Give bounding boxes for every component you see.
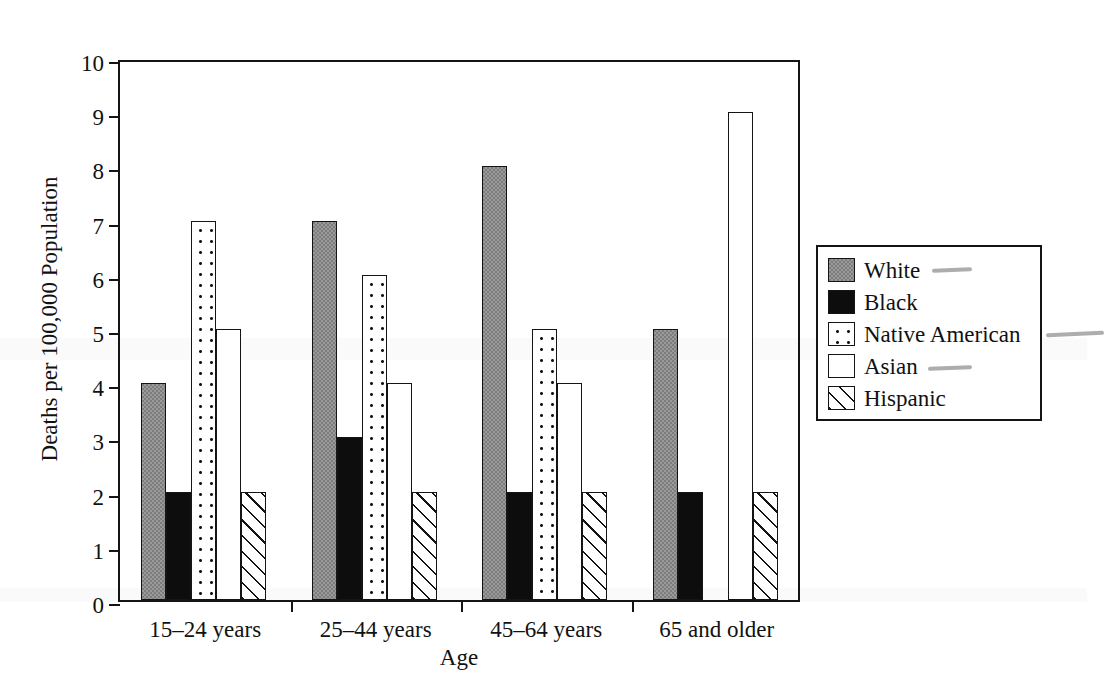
x-axis-tick [461, 600, 463, 612]
legend-item-white: White [828, 254, 1040, 286]
y-axis-tick: 6 [109, 279, 120, 281]
legend-label: Native American [864, 323, 1020, 346]
bar-hispanic-group-3 [582, 492, 607, 600]
y-axis-tick: 9 [109, 116, 120, 118]
x-axis-group-label: 45–64 years [490, 617, 602, 643]
bar-black-group-1 [166, 492, 191, 600]
plot-area: 012345678910 15–24 years25–44 years45–64… [118, 60, 800, 602]
y-axis-tick: 3 [109, 441, 120, 443]
bar-hispanic-group-2 [412, 492, 437, 600]
y-axis-tick-label: 7 [93, 215, 105, 238]
bar-black-group-4 [678, 492, 703, 600]
legend-label: Black [864, 291, 918, 314]
legend-swatch-gray [828, 258, 855, 282]
y-axis-tick-label: 9 [93, 106, 105, 129]
y-axis-tick: 5 [109, 333, 120, 335]
x-axis-tick [291, 600, 293, 612]
x-axis-group-label: 15–24 years [149, 617, 261, 643]
y-axis-tick: 10 [109, 62, 120, 64]
legend-label: Asian [864, 355, 918, 378]
y-axis-tick-label: 3 [93, 431, 105, 454]
bar-black-group-3 [507, 492, 532, 600]
pencil-annotation-mark [928, 365, 972, 371]
bar-white-group-1 [141, 383, 166, 600]
legend-swatch-white [828, 354, 855, 378]
bar-hispanic-group-4 [753, 492, 778, 600]
pencil-annotation-mark [932, 267, 972, 273]
y-axis-tick-label: 5 [93, 323, 105, 346]
bar-asian-group-2 [387, 383, 412, 600]
bar-native-american-group-2 [362, 275, 387, 600]
bar-asian-group-1 [216, 329, 241, 600]
y-axis-tick-label: 8 [93, 160, 105, 183]
bar-white-group-3 [482, 166, 507, 600]
y-axis-tick-label: 2 [93, 486, 105, 509]
legend-label: Hispanic [864, 387, 946, 410]
pencil-annotation-mark [1046, 331, 1104, 338]
x-axis-title: Age [118, 645, 800, 671]
bar-white-group-4 [653, 329, 678, 600]
y-axis-tick-label: 10 [81, 52, 104, 75]
y-axis-tick: 8 [109, 170, 120, 172]
legend-item-hispanic: Hispanic [828, 382, 1040, 414]
bar-asian-group-4 [728, 112, 753, 600]
x-axis-group-label: 65 and older [659, 617, 774, 643]
legend-box: WhiteBlackNative AmericanAsianHispanic [816, 245, 1042, 421]
bar-black-group-2 [337, 437, 362, 600]
y-axis-tick-label: 4 [93, 377, 105, 400]
y-axis-tick-label: 1 [93, 540, 105, 563]
bar-native-american-group-3 [532, 329, 557, 600]
y-axis-tick: 1 [109, 550, 120, 552]
y-axis-tick: 2 [109, 496, 120, 498]
y-axis-title: Deaths per 100,000 Population [37, 109, 63, 529]
y-axis-tick: 4 [109, 387, 120, 389]
y-axis-tick: 7 [109, 225, 120, 227]
bar-asian-group-3 [557, 383, 582, 600]
bar-native-american-group-1 [191, 221, 216, 600]
y-axis-tick: 0 [109, 604, 120, 606]
legend-label: White [864, 259, 920, 282]
legend-swatch-hatch [828, 386, 855, 410]
legend-item-asian: Asian [828, 350, 1040, 382]
legend-swatch-black [828, 290, 855, 314]
legend-item-black: Black [828, 286, 1040, 318]
x-axis-tick [632, 600, 634, 612]
legend-item-native-american: Native American [828, 318, 1040, 350]
x-axis-group-label: 25–44 years [320, 617, 432, 643]
y-axis-tick-label: 0 [93, 594, 105, 617]
y-axis-tick-label: 6 [93, 269, 105, 292]
bar-white-group-2 [312, 221, 337, 600]
bar-hispanic-group-1 [241, 492, 266, 600]
legend-swatch-dots [828, 322, 855, 346]
